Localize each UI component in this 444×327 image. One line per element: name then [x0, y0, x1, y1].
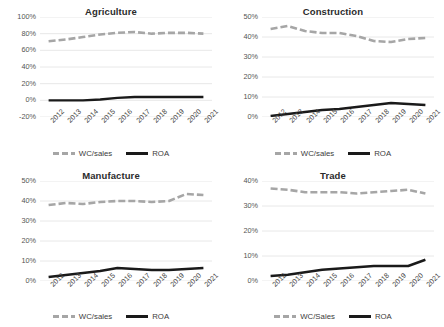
y-tick-label: 0% [247, 113, 258, 120]
x-axis-labels-trade: 2012201320142015201620172018201920202021 [262, 281, 434, 313]
legend-label-roa: ROA [152, 149, 169, 158]
legend-item-roa: ROA [348, 149, 391, 158]
y-tick-label: 40% [21, 197, 36, 204]
legend-label-roa: ROA [375, 312, 392, 321]
legend-item-roa: ROA [349, 312, 392, 321]
legend-label-wc-sales: WC/sales [301, 149, 334, 158]
y-tick-label: 40% [243, 33, 258, 40]
y-tick-label: 100% [17, 13, 36, 20]
y-tick-label: -20% [19, 113, 36, 120]
legend-agriculture: WC/sales ROA [0, 149, 222, 158]
y-tick-label: 10% [243, 93, 258, 100]
y-tick-label: 0% [25, 97, 36, 104]
legend-manufacture: WC/sales ROA [0, 312, 222, 321]
legend-item-roa: ROA [126, 312, 169, 321]
series-line-roa [49, 97, 204, 100]
legend-item-roa: ROA [126, 149, 169, 158]
y-tick-label: 20% [21, 80, 36, 87]
panel-agriculture: Agriculture -20%0%20%40%60%80%100% 20122… [0, 0, 222, 164]
y-tick-label: 0% [247, 277, 258, 284]
y-tick-label: 20% [243, 227, 258, 234]
plot-area-trade: 0%10%20%30%40% [262, 181, 434, 281]
y-tick-label: 40% [243, 177, 258, 184]
plot-svg-manufacture [40, 181, 212, 281]
solid-line-icon [349, 315, 371, 318]
dashed-line-icon [275, 152, 297, 155]
legend-label-wc-sales: WC/Sales [300, 312, 335, 321]
plot-area-agriculture: -20%0%20%40%60%80%100% [40, 17, 212, 117]
plot-area-construction: 0%10%20%30%40%50% [262, 17, 434, 117]
dashed-line-icon [53, 315, 75, 318]
legend-label-roa: ROA [152, 312, 169, 321]
y-tick-label: 20% [243, 73, 258, 80]
solid-line-icon [126, 152, 148, 155]
legend-label-wc-sales: WC/sales [79, 149, 112, 158]
series-line-wc-sales [271, 26, 426, 42]
y-tick-label: 30% [243, 202, 258, 209]
plot-svg-agriculture [40, 17, 212, 117]
y-axis-labels-agriculture: -20%0%20%40%60%80%100% [0, 17, 36, 117]
legend-item-wc-sales: WC/sales [275, 149, 334, 158]
y-tick-label: 30% [243, 53, 258, 60]
y-tick-label: 10% [243, 252, 258, 259]
legend-label-roa: ROA [374, 149, 391, 158]
plot-svg-trade [262, 181, 434, 281]
legend-item-wc-sales: WC/Sales [274, 312, 335, 321]
y-tick-label: 50% [21, 177, 36, 184]
y-tick-label: 60% [21, 47, 36, 54]
series-line-wc-sales [49, 194, 204, 205]
dashed-line-icon [274, 315, 296, 318]
legend-item-wc-sales: WC/sales [53, 312, 112, 321]
solid-line-icon [126, 315, 148, 318]
x-axis-labels-manufacture: 2012201320142015201620172018201920202021 [40, 281, 212, 313]
plot-svg-construction [262, 17, 434, 117]
chart-grid: Agriculture -20%0%20%40%60%80%100% 20122… [0, 0, 444, 327]
panel-manufacture: Manufacture 0%10%20%30%40%50% 2012201320… [0, 164, 222, 327]
dashed-line-icon [53, 152, 75, 155]
y-tick-label: 30% [21, 217, 36, 224]
x-axis-labels-agriculture: 2012201320142015201620172018201920202021 [40, 117, 212, 149]
panel-trade: Trade 0%10%20%30%40% 2012201320142015201… [222, 164, 444, 327]
solid-line-icon [348, 152, 370, 155]
y-tick-label: 10% [21, 257, 36, 264]
y-tick-label: 80% [21, 30, 36, 37]
y-tick-label: 40% [21, 63, 36, 70]
y-axis-labels-manufacture: 0%10%20%30%40%50% [0, 181, 36, 281]
legend-label-wc-sales: WC/sales [79, 312, 112, 321]
y-axis-labels-trade: 0%10%20%30%40% [222, 181, 258, 281]
x-axis-labels-construction: 2012201320142015201620172018201920202021 [262, 117, 434, 149]
y-tick-label: 20% [21, 237, 36, 244]
panel-construction: Construction 0%10%20%30%40%50% 201220132… [222, 0, 444, 164]
y-tick-label: 0% [25, 277, 36, 284]
series-line-wc-sales [271, 189, 426, 194]
y-tick-label: 50% [243, 13, 258, 20]
legend-item-wc-sales: WC/sales [53, 149, 112, 158]
legend-trade: WC/Sales ROA [222, 312, 444, 321]
legend-construction: WC/sales ROA [222, 149, 444, 158]
plot-area-manufacture: 0%10%20%30%40%50% [40, 181, 212, 281]
y-axis-labels-construction: 0%10%20%30%40%50% [222, 17, 258, 117]
